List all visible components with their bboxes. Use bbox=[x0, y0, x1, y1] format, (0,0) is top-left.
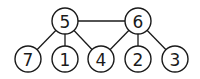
graph-diagram: 5671423 bbox=[0, 0, 200, 79]
node-label: 7 bbox=[23, 50, 34, 70]
node-1: 1 bbox=[52, 46, 78, 72]
node-label: 3 bbox=[170, 50, 181, 70]
node-label: 2 bbox=[133, 50, 144, 70]
node-label: 6 bbox=[133, 12, 144, 32]
node-label: 1 bbox=[60, 50, 71, 70]
node-label: 5 bbox=[60, 12, 71, 32]
node-4: 4 bbox=[88, 46, 114, 72]
node-3: 3 bbox=[162, 46, 188, 72]
node-5: 5 bbox=[52, 8, 78, 34]
node-2: 2 bbox=[125, 46, 151, 72]
nodes: 5671423 bbox=[15, 8, 188, 72]
node-label: 4 bbox=[96, 50, 107, 70]
node-7: 7 bbox=[15, 46, 41, 72]
node-6: 6 bbox=[125, 8, 151, 34]
